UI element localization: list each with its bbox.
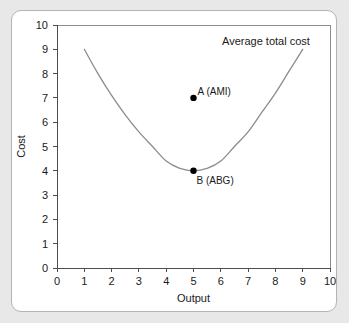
x-tick-label-6: 6	[218, 275, 224, 287]
point-b-dot	[190, 168, 196, 174]
annotation-point-a: A (AMI)	[190, 86, 231, 101]
x-tick-label-4: 4	[163, 275, 169, 287]
x-tick-label-0: 0	[54, 275, 60, 287]
y-axis-tick-labels: 0 1 2 3 4 5 6 7 8 9 10	[36, 19, 48, 274]
plot-frame-top-right	[57, 25, 330, 268]
x-tick-label-5: 5	[190, 275, 196, 287]
y-tick-label-10: 10	[36, 19, 48, 31]
x-axis-title: Output	[177, 292, 210, 304]
x-tick-label-1: 1	[81, 275, 87, 287]
y-tick-label-3: 3	[42, 189, 48, 201]
x-tick-label-7: 7	[245, 275, 251, 287]
x-axis-ticks	[57, 268, 330, 272]
y-tick-label-5: 5	[42, 141, 48, 153]
x-tick-label-8: 8	[272, 275, 278, 287]
x-axis-tick-labels: 0 1 2 3 4 5 6 7 8 9 10	[54, 275, 336, 287]
y-axis-title: Cost	[15, 135, 27, 158]
x-tick-label-10: 10	[324, 275, 336, 287]
y-tick-label-9: 9	[42, 43, 48, 55]
point-b-label: B (ABG)	[197, 175, 234, 186]
point-a-label: A (AMI)	[198, 86, 231, 97]
figure-container: 0 1 2 3 4 5 6 7 8 9 10 0	[0, 0, 349, 323]
y-tick-label-0: 0	[42, 262, 48, 274]
average-total-cost-curve	[84, 49, 302, 171]
point-a-dot	[190, 95, 196, 101]
y-tick-label-8: 8	[42, 68, 48, 80]
series-label-average-total-cost: Average total cost	[222, 35, 310, 47]
y-tick-label-7: 7	[42, 92, 48, 104]
y-tick-label-4: 4	[42, 165, 48, 177]
y-tick-label-2: 2	[42, 213, 48, 225]
x-tick-label-9: 9	[300, 275, 306, 287]
y-axis-ticks	[53, 25, 57, 268]
x-tick-label-2: 2	[109, 275, 115, 287]
cost-curve-chart: 0 1 2 3 4 5 6 7 8 9 10 0	[0, 0, 349, 323]
y-tick-label-6: 6	[42, 116, 48, 128]
y-tick-label-1: 1	[42, 238, 48, 250]
x-tick-label-3: 3	[136, 275, 142, 287]
